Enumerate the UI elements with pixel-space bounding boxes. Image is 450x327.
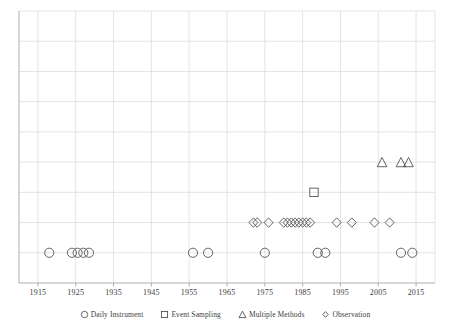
x-tick-label: 1935 [97,288,131,297]
legend-item-label: Observation [332,310,370,319]
legend-item-label: Event Sampling [171,310,221,319]
legend-item[interactable]: Multiple Methods [238,310,305,319]
x-tick-label: 1995 [323,288,357,297]
x-tick-label: 1985 [286,288,320,297]
x-tick-label: 1955 [172,288,206,297]
legend-item-label: Daily Instrument [91,310,144,319]
x-tick-label: 2015 [399,288,433,297]
x-tick-label: 1925 [59,288,93,297]
square-marker-icon [160,310,169,319]
data-markers [45,158,417,258]
legend-item[interactable]: Observation [321,310,370,319]
circle-marker-icon [80,310,89,319]
legend-item[interactable]: Daily Instrument [80,310,144,319]
x-tick-label: 1945 [134,288,168,297]
x-tick-label: 2005 [361,288,395,297]
chart-legend: Daily InstrumentEvent SamplingMultiple M… [0,306,450,322]
legend-item[interactable]: Event Sampling [160,310,221,319]
scatter-plot [0,0,450,327]
diamond-marker-icon [321,310,330,319]
x-tick-label: 1915 [21,288,55,297]
triangle-marker-icon [238,310,247,319]
chart-page: 1915192519351945195519651975198519952005… [0,0,450,327]
legend-item-label: Multiple Methods [249,310,305,319]
gridlines [19,11,435,283]
axis-ticks [38,283,416,287]
x-tick-label: 1975 [248,288,282,297]
x-tick-label: 1965 [210,288,244,297]
